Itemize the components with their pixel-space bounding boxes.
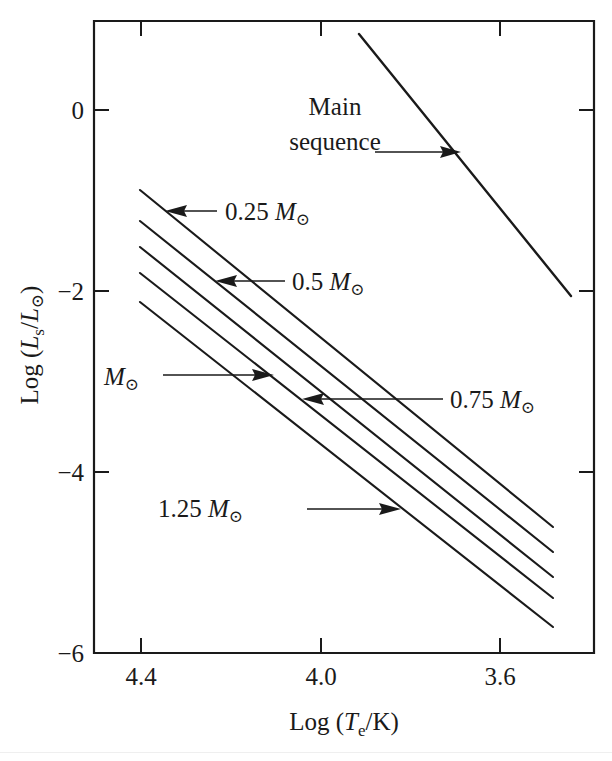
y-axis-title-symbol-2: L	[16, 308, 43, 323]
mass-1.25-value: 1.25	[158, 495, 202, 522]
mass-1.25-sun-icon: ⊙	[229, 507, 243, 526]
mass-0.75-sun-icon: ⊙	[521, 398, 535, 417]
mass-1-symbol: M	[103, 363, 126, 390]
figure-container: 4.4 4.0 3.6 0 −2 −4 −6 Log (Te/K) Log (L…	[0, 0, 612, 761]
x-tick-label-2: 3.6	[484, 663, 515, 690]
x-tick-label-0: 4.4	[125, 663, 157, 690]
main-sequence-label-line2: sequence	[289, 128, 381, 155]
annotation-main-sequence: Main sequence	[289, 93, 461, 158]
svg-text:0.75 M⊙: 0.75 M⊙	[450, 386, 535, 417]
mass-0.5-sun-icon: ⊙	[350, 280, 364, 299]
svg-text:1.25 M⊙: 1.25 M⊙	[158, 495, 243, 526]
x-axis-title-prefix: Log (	[289, 708, 344, 736]
y-tick-label-1: −2	[57, 278, 84, 305]
x-axis-tick-labels: 4.4 4.0 3.6	[125, 663, 515, 690]
series-main-sequence	[359, 34, 571, 296]
cooling-track-0.25msun	[140, 190, 553, 527]
y-axis-title-divider: /	[16, 322, 43, 329]
svg-text:Log (Te/K): Log (Te/K)	[289, 708, 399, 740]
main-sequence-label-line1: Main	[309, 93, 362, 120]
cooling-track-1.25msun	[140, 302, 553, 627]
mass-0.25-value: 0.25	[225, 198, 269, 225]
annotation-mass-0.5: 0.5 M⊙	[215, 268, 365, 299]
y-tick-label-3: −6	[57, 640, 84, 667]
mass-0.25-sun-icon: ⊙	[296, 210, 310, 229]
y-tick-label-2: −4	[57, 459, 84, 486]
y-axis-title-subscript: s	[29, 329, 48, 336]
y-axis-title: Log (Ls/L⊙)	[16, 286, 48, 405]
svg-text:0.5 M⊙: 0.5 M⊙	[292, 268, 365, 299]
mass-1-sun-icon: ⊙	[125, 375, 139, 394]
y-axis-title-symbol: L	[16, 336, 43, 351]
annotation-mass-1: M⊙	[103, 363, 274, 394]
mass-0.5-value: 0.5	[292, 268, 323, 295]
annotation-mass-0.25: 0.25 M⊙	[165, 198, 310, 229]
mass-0.75-symbol: M	[499, 386, 522, 413]
mass-0.25-arrowhead-left-icon	[165, 205, 187, 217]
y-tick-label-0: 0	[72, 97, 85, 124]
x-axis-title-suffix: /K)	[365, 708, 398, 736]
svg-text:0.25 M⊙: 0.25 M⊙	[225, 198, 310, 229]
mass-0.5-arrowhead-left-icon	[215, 275, 237, 287]
scan-artifact-line	[0, 752, 612, 753]
y-axis-title-prefix: Log (	[16, 350, 44, 405]
x-tick-label-1: 4.0	[305, 663, 336, 690]
y-axis-tick-labels: 0 −2 −4 −6	[57, 97, 84, 667]
annotation-mass-0.75: 0.75 M⊙	[302, 386, 535, 417]
mass-0.5-symbol: M	[329, 268, 352, 295]
hr-diagram-plot: 4.4 4.0 3.6 0 −2 −4 −6 Log (Te/K) Log (L…	[0, 0, 612, 761]
x-axis-title: Log (Te/K)	[289, 708, 399, 740]
mass-1.25-symbol: M	[207, 495, 230, 522]
svg-text:M⊙: M⊙	[103, 363, 139, 394]
main-sequence-line	[359, 34, 571, 296]
annotation-mass-1.25: 1.25 M⊙	[158, 495, 401, 526]
y-axis-title-suffix: )	[16, 286, 44, 294]
mass-0.75-value: 0.75	[450, 386, 494, 413]
x-axis-title-subscript: e	[358, 721, 366, 740]
y-axis-title-sun-icon: ⊙	[28, 294, 47, 308]
svg-text:Log (Ls/L⊙): Log (Ls/L⊙)	[16, 286, 48, 405]
cooling-track-1msun	[140, 273, 553, 598]
mass-0.25-symbol: M	[274, 198, 297, 225]
